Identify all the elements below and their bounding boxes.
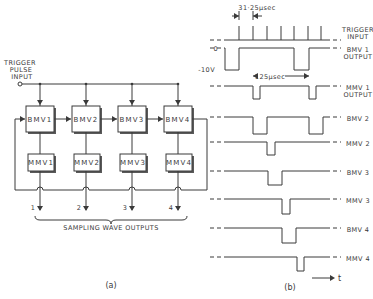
arrow-down-icon bbox=[83, 206, 89, 211]
arrow-right-icon bbox=[234, 13, 239, 19]
bmv3-waveform bbox=[225, 171, 326, 185]
outputs-brace bbox=[35, 216, 187, 224]
level-high-label: 0 bbox=[213, 45, 218, 53]
mmv2-waveform bbox=[225, 142, 326, 155]
arrow-down-icon bbox=[37, 100, 43, 105]
bmv-label: BMV3 bbox=[120, 116, 145, 124]
arrow-right-icon bbox=[158, 116, 163, 122]
arrow-down-icon bbox=[175, 206, 181, 211]
output-number-label: 4 bbox=[169, 204, 174, 212]
bmv4-waveform bbox=[225, 228, 326, 243]
mmv-label: MMV4 bbox=[166, 159, 192, 167]
mmv3-label: MMV 3 bbox=[346, 197, 370, 205]
bmv4-label: BMV 4 bbox=[347, 226, 370, 234]
bmv-label: BMV2 bbox=[74, 116, 99, 124]
arrow-right-icon bbox=[66, 116, 71, 122]
output-number-label: 2 bbox=[77, 204, 82, 212]
caption-a: (a) bbox=[105, 281, 116, 290]
arrow-right-icon bbox=[20, 116, 25, 122]
block-diagram-panel: TRIGGER PULSE INPUT BMV1MMV11BMV2MMV22BM… bbox=[3, 59, 207, 290]
timing-diagram-panel: 31·25μsec 0 -10V 125μsec TRIGGERINPUTBMV… bbox=[198, 4, 373, 292]
arrow-down-icon bbox=[37, 206, 43, 211]
bmv1-label: OUTPUT bbox=[344, 53, 373, 61]
mmv-label: MMV2 bbox=[74, 159, 100, 167]
bmv-label: BMV4 bbox=[166, 116, 191, 124]
caption-b: (b) bbox=[284, 283, 295, 292]
mmv3-waveform bbox=[225, 199, 326, 214]
arrow-down-icon bbox=[129, 206, 135, 211]
mmv4-waveform bbox=[225, 257, 326, 271]
mmv-label: MMV3 bbox=[120, 159, 146, 167]
mmv4-label: MMV 4 bbox=[346, 255, 370, 263]
sampling-wave-outputs-label: SAMPLING WAVE OUTPUTS bbox=[63, 224, 158, 232]
sampling-circuit-figure: TRIGGER PULSE INPUT BMV1MMV11BMV2MMV22BM… bbox=[0, 0, 373, 299]
output-number-label: 3 bbox=[123, 204, 128, 212]
blocks-group: BMV1MMV11BMV2MMV22BMV3MMV33BMV4MMV44 bbox=[15, 83, 207, 224]
mmv-label: MMV1 bbox=[28, 159, 54, 167]
bmv1-waveform bbox=[225, 48, 326, 70]
bmv2-label: BMV 2 bbox=[347, 115, 370, 123]
arrow-right-icon bbox=[112, 116, 117, 122]
bmv2-waveform bbox=[225, 117, 326, 134]
arrow-left-icon bbox=[253, 13, 258, 19]
level-low-label: -10V bbox=[198, 66, 215, 74]
arrow-down-icon bbox=[175, 100, 181, 105]
bmv3-label: BMV 3 bbox=[347, 169, 370, 177]
waveforms-group: TRIGGERINPUTBMV 1OUTPUTMMV 1OUTPUTBMV 2M… bbox=[210, 11, 373, 281]
period-label: 31·25μsec bbox=[238, 4, 275, 12]
mmv2-label: MMV 2 bbox=[346, 140, 370, 148]
arrow-right-icon bbox=[330, 275, 335, 281]
arrow-down-icon bbox=[83, 100, 89, 105]
mmv1-waveform bbox=[225, 86, 326, 99]
trigger-pulse-input-label-3: INPUT bbox=[11, 73, 32, 81]
output-number-label: 1 bbox=[31, 204, 36, 212]
time-axis-label: t bbox=[338, 274, 341, 283]
trigger-input-label: INPUT bbox=[347, 33, 368, 41]
bmv-label: BMV1 bbox=[28, 116, 53, 124]
cycle-label: 125μsec bbox=[255, 73, 285, 81]
input-terminal-icon bbox=[18, 82, 22, 86]
arrow-down-icon bbox=[129, 100, 135, 105]
mmv1-label: OUTPUT bbox=[344, 91, 373, 99]
